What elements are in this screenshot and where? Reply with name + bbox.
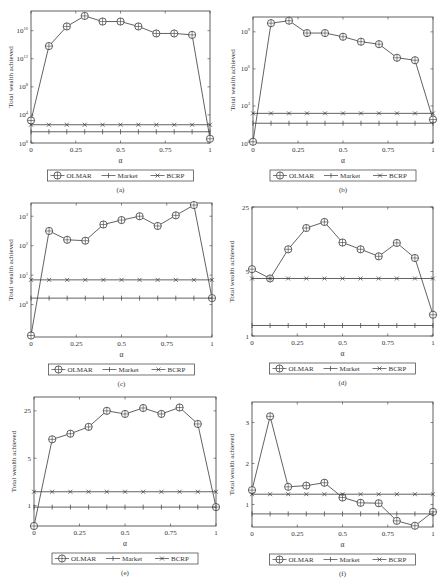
x-tick-label: 1	[208, 146, 212, 154]
y-tick-label: 25	[24, 407, 32, 415]
x-axis-label: α	[123, 539, 127, 548]
x-tick-label: 0.25	[73, 529, 86, 537]
series-line-olmar	[31, 205, 212, 335]
x-tick-label: 0.5	[117, 340, 126, 348]
y-tick-label: 3	[246, 419, 250, 427]
x-tick-label: 0.75	[164, 529, 177, 537]
y-tick-label: 100	[19, 139, 29, 148]
y-tick-label: 103	[241, 101, 251, 110]
y-tick-label: 1012	[17, 54, 29, 63]
chart-panel-f: 00.250.50.751123αTotal wealth achievedOL…	[228, 402, 437, 578]
legend-label-olmar: OLMAR	[67, 172, 93, 180]
y-tick-label: 103	[19, 212, 29, 221]
x-tick-label: 1	[431, 146, 435, 154]
legend-label-bcrp: BCRP	[167, 172, 185, 180]
y-tick-label: 102	[19, 241, 28, 250]
x-tick-label: 0.75	[159, 146, 172, 154]
y-tick-label: 2	[246, 460, 250, 468]
x-tick-label: 0	[29, 146, 33, 154]
x-tick-label: 0.25	[70, 340, 83, 348]
legend: OLMARMarketBCRP	[49, 364, 195, 375]
y-tick-label: 109	[241, 27, 251, 36]
legend-label-market: Market	[119, 366, 139, 374]
legend: OLMARMarketBCRP	[270, 554, 416, 565]
legend-label-market: Market	[122, 555, 142, 563]
plot-frame	[252, 402, 433, 527]
y-tick-label: 1	[246, 333, 250, 341]
panel-caption: (e)	[121, 569, 129, 577]
x-tick-label: 0.5	[121, 529, 130, 537]
x-tick-label: 0.25	[70, 146, 83, 154]
x-tick-label: 0	[29, 340, 33, 348]
y-axis-label: Total wealth achieved	[7, 239, 15, 301]
y-axis-label: Total wealth achieved	[7, 46, 15, 108]
legend-label-market: Market	[340, 365, 360, 373]
panel-caption: (c)	[118, 380, 126, 388]
figure-grid: 00.250.50.75110010410810121016αTotal wea…	[0, 0, 445, 583]
x-tick-label: 0	[250, 530, 254, 538]
chart-panel-e: 00.250.50.7511525αTotal wealth achievedO…	[10, 397, 220, 577]
legend: OLMARMarketBCRP	[270, 170, 416, 181]
series-line-olmar	[252, 222, 433, 315]
x-axis-label: α	[341, 156, 345, 165]
x-tick-label: 0.5	[338, 530, 347, 538]
legend-label-bcrp: BCRP	[389, 172, 407, 180]
legend-label-olmar: OLMAR	[71, 555, 97, 563]
legend-label-olmar: OLMAR	[289, 556, 315, 564]
x-tick-label: 0.75	[161, 340, 174, 348]
plot-frame	[252, 207, 433, 336]
y-axis-label: Total wealth achieved	[10, 430, 18, 492]
x-tick-label: 0.5	[339, 146, 348, 154]
x-tick-label: 1	[210, 340, 214, 348]
y-axis-label: Total wealth achieved	[228, 433, 236, 495]
chart-panel-c: 00.250.50.751100101102103αTotal wealth a…	[7, 201, 216, 388]
legend-label-market: Market	[118, 172, 138, 180]
x-tick-label: 0.5	[338, 339, 347, 347]
panel-caption: (b)	[339, 186, 348, 194]
y-tick-label: 1	[28, 502, 32, 510]
panel-caption: (f)	[339, 570, 347, 578]
y-tick-label: 25	[242, 204, 250, 212]
legend-label-bcrp: BCRP	[168, 366, 186, 374]
y-tick-label: 104	[19, 110, 29, 119]
x-tick-label: 0.25	[291, 339, 304, 347]
legend-label-olmar: OLMAR	[289, 365, 315, 373]
x-tick-label: 0.75	[382, 146, 395, 154]
x-tick-label: 0	[32, 529, 36, 537]
y-axis-label: Total wealth achieved	[229, 49, 237, 111]
y-axis-label: Total wealth achieved	[228, 240, 236, 302]
y-tick-label: 1016	[17, 26, 29, 35]
legend-label-olmar: OLMAR	[289, 172, 315, 180]
x-tick-label: 0	[251, 146, 255, 154]
x-axis-label: α	[341, 349, 345, 358]
legend: OLMARMarketBCRP	[52, 553, 198, 564]
legend-label-bcrp: BCRP	[389, 365, 407, 373]
chart-panel-b: 00.250.50.751100103106109αTotal wealth a…	[229, 17, 437, 194]
x-tick-label: 1	[214, 529, 218, 537]
y-tick-label: 101	[19, 271, 28, 280]
x-axis-label: α	[341, 540, 345, 549]
y-tick-label: 1	[246, 501, 250, 509]
x-tick-label: 0.5	[116, 146, 125, 154]
x-tick-label: 0.75	[382, 530, 395, 538]
x-tick-label: 1	[431, 339, 435, 347]
panel-caption: (d)	[338, 379, 347, 387]
x-tick-label: 0	[250, 339, 254, 347]
legend-label-olmar: OLMAR	[68, 366, 94, 374]
chart-panel-d: 00.250.50.7511525αTotal wealth achievedO…	[228, 204, 437, 388]
plot-frame	[31, 11, 210, 143]
x-tick-label: 0.25	[292, 146, 305, 154]
x-tick-label: 1	[431, 530, 435, 538]
legend-label-bcrp: BCRP	[171, 555, 189, 563]
legend: OLMARMarketBCRP	[270, 363, 416, 374]
legend-label-market: Market	[340, 556, 360, 564]
series-line-olmar	[31, 16, 210, 139]
series-line-olmar	[252, 416, 433, 525]
legend: OLMARMarketBCRP	[48, 170, 194, 181]
x-axis-label: α	[119, 156, 123, 165]
y-tick-label: 5	[28, 455, 32, 463]
x-axis-label: α	[120, 350, 124, 359]
y-tick-label: 108	[19, 82, 29, 91]
legend-label-market: Market	[340, 172, 360, 180]
legend-label-bcrp: BCRP	[389, 556, 407, 564]
